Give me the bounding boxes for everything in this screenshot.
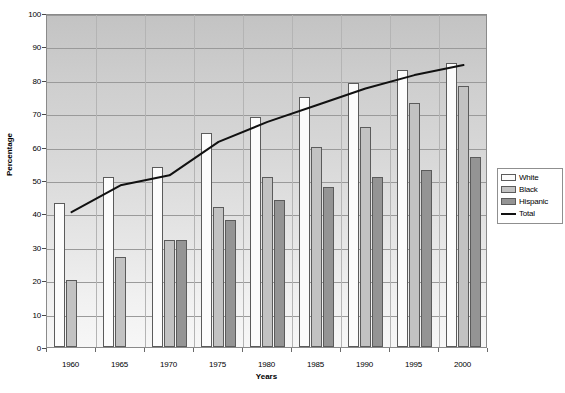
legend-label: Hispanic <box>519 197 548 206</box>
chart-legend: WhiteBlackHispanicTotal <box>497 168 563 224</box>
swatch-black-icon <box>501 186 516 193</box>
legend-item-hispanic[interactable]: Hispanic <box>501 196 559 207</box>
y-tick-label: 10 <box>33 310 42 319</box>
legend-item-black[interactable]: Black <box>501 184 559 195</box>
x-tick-mark <box>46 348 47 352</box>
x-tick-mark <box>340 348 341 352</box>
legend-item-white[interactable]: White <box>501 172 559 183</box>
x-tick-mark <box>144 348 145 352</box>
x-tick-label: 1995 <box>405 360 422 369</box>
x-tick-label: 1960 <box>62 360 79 369</box>
y-tick-label: 60 <box>33 143 42 152</box>
x-tick-label: 2000 <box>454 360 471 369</box>
x-tick-mark <box>242 348 243 352</box>
x-tick-label: 1975 <box>209 360 226 369</box>
x-tick-mark <box>95 348 96 352</box>
y-tick-label: 90 <box>33 43 42 52</box>
x-tick-mark <box>193 348 194 352</box>
y-tick-label: 80 <box>33 76 42 85</box>
x-axis-title: Years <box>46 372 487 381</box>
legend-item-total[interactable]: Total <box>501 208 559 219</box>
x-tick-label: 1970 <box>160 360 177 369</box>
y-tick-label: 20 <box>33 277 42 286</box>
plot-area <box>46 14 487 348</box>
x-tick-label: 1990 <box>356 360 373 369</box>
x-tick-label: 1965 <box>111 360 128 369</box>
y-tick-label: 100 <box>28 10 41 19</box>
x-tick-mark <box>389 348 390 352</box>
swatch-hispanic-icon <box>501 198 516 205</box>
x-tick-mark <box>291 348 292 352</box>
legend-label: Black <box>519 185 538 194</box>
chart-figure: 0102030405060708090100 Percentage 196019… <box>0 0 565 393</box>
legend-label: Total <box>519 209 535 218</box>
swatch-white-icon <box>501 174 516 181</box>
y-tick-label: 30 <box>33 243 42 252</box>
y-tick-label: 50 <box>33 177 42 186</box>
total-line-series <box>47 15 487 348</box>
y-tick-label: 70 <box>33 110 42 119</box>
x-tick-mark <box>438 348 439 352</box>
x-tick-label: 1985 <box>307 360 324 369</box>
x-axis: 196019651970197519801985199019952000 <box>46 348 487 388</box>
line-swatch-icon <box>501 213 516 215</box>
x-tick-label: 1980 <box>258 360 275 369</box>
y-tick-label: 0 <box>37 344 41 353</box>
y-axis-title: Percentage <box>5 125 14 185</box>
y-tick-label: 40 <box>33 210 42 219</box>
x-tick-mark <box>487 348 488 352</box>
legend-label: White <box>519 173 538 182</box>
